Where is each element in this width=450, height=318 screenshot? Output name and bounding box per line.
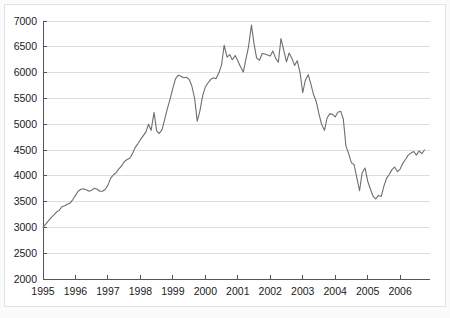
y-axis-tick-label: 5500 <box>14 92 38 104</box>
x-axis-tick-label: 1995 <box>31 285 55 297</box>
y-axis-tick-label: 4000 <box>14 169 38 181</box>
x-axis-tick-label: 2001 <box>226 285 250 297</box>
x-axis-tick-label: 1996 <box>64 285 88 297</box>
y-axis-tick-label: 3500 <box>14 195 38 207</box>
line-chart: 2000250030003500400045005000550060006500… <box>0 0 450 318</box>
y-axis-labels-group: 2000250030003500400045005000550060006500… <box>14 15 38 285</box>
y-axis-tick-label: 2500 <box>14 247 38 259</box>
x-tick-marks-group <box>43 275 400 279</box>
x-axis-tick-label: 1999 <box>161 285 185 297</box>
y-axis-tick-label: 3000 <box>14 221 38 233</box>
y-tick-marks-group <box>43 21 47 279</box>
x-axis-tick-label: 2005 <box>356 285 380 297</box>
x-axis-tick-label: 2003 <box>291 285 315 297</box>
x-axis-tick-label: 2006 <box>388 285 412 297</box>
y-axis-tick-label: 7000 <box>14 15 38 27</box>
x-axis-tick-label: 1998 <box>129 285 153 297</box>
y-axis-tick-label: 6000 <box>14 66 38 78</box>
x-axis-tick-label: 2002 <box>259 285 283 297</box>
x-axis-tick-label: 1997 <box>96 285 120 297</box>
chart-figure: 2000250030003500400045005000550060006500… <box>0 0 450 318</box>
y-axis-tick-label: 5000 <box>14 118 38 130</box>
x-axis-labels-group: 1995199619971998199920002001200220032004… <box>31 285 412 297</box>
gridlines-group <box>43 21 430 253</box>
y-axis-tick-label: 6500 <box>14 40 38 52</box>
y-axis-tick-label: 2000 <box>14 273 38 285</box>
x-axis-tick-label: 2004 <box>324 285 348 297</box>
data-series-line <box>43 25 424 227</box>
y-axis-tick-label: 4500 <box>14 144 38 156</box>
x-axis-tick-label: 2000 <box>194 285 218 297</box>
